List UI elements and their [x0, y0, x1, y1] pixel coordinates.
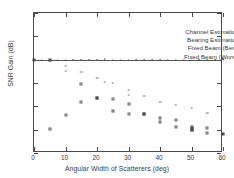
data-point: [41, 59, 43, 61]
data-point: [111, 83, 114, 84]
data-point: [96, 59, 98, 61]
data-point: [127, 103, 130, 106]
data-point: [151, 59, 153, 61]
data-point: [65, 59, 67, 61]
y-tick-mark: [217, 153, 221, 154]
data-point: [80, 71, 83, 72]
data-point: [127, 112, 130, 115]
data-point: [73, 59, 75, 61]
data-point: [136, 59, 138, 61]
data-point: [48, 128, 51, 131]
data-point: [104, 81, 107, 82]
data-point: [88, 59, 90, 61]
data-point: [57, 59, 59, 61]
data-point: [159, 117, 162, 120]
legend-item: Bearing Estimation: [167, 36, 234, 44]
data-point: [127, 95, 130, 96]
data-point: [190, 108, 193, 109]
data-point: [174, 126, 177, 129]
data-point: [222, 132, 225, 135]
data-point: [80, 83, 83, 86]
data-point: [96, 97, 99, 100]
data-point: [64, 113, 67, 116]
data-point: [96, 77, 99, 78]
chart-figure: SNR Gain (dB) Angular Width of Scatterer…: [0, 0, 234, 178]
y-tick-mark: [34, 83, 38, 84]
y-tick-mark: [34, 106, 38, 107]
x-tick-label: 60: [212, 155, 232, 162]
data-point: [143, 59, 145, 61]
data-point: [64, 66, 67, 67]
y-tick-mark: [217, 130, 221, 131]
legend-label: Channel Estimation: [185, 28, 234, 36]
plot-area: Channel EstimationBearing EstimationFixe…: [33, 12, 222, 152]
legend-label: Fixed Beam (Best): [188, 44, 234, 52]
data-point: [174, 118, 177, 121]
y-tick-mark: [34, 36, 38, 37]
legend-label: Bearing Estimation: [187, 36, 234, 44]
x-tick-label: 0: [23, 155, 43, 162]
x-tick-label: 10: [55, 155, 75, 162]
chart-legend: Channel EstimationBearing EstimationFixe…: [167, 28, 234, 61]
data-point: [128, 59, 130, 61]
data-point: [64, 71, 67, 72]
x-tick-mark: [97, 147, 98, 151]
x-tick-label: 40: [149, 155, 169, 162]
y-tick-mark: [217, 106, 221, 107]
x-tick-mark: [192, 147, 193, 151]
data-point: [206, 112, 209, 113]
data-point: [143, 95, 146, 96]
x-tick-mark: [66, 13, 67, 17]
x-tick-mark: [192, 13, 193, 17]
data-point: [190, 129, 193, 132]
x-tick-mark: [160, 147, 161, 151]
x-tick-mark: [129, 13, 130, 17]
data-point: [159, 102, 162, 103]
data-point: [33, 147, 36, 148]
data-point: [159, 121, 162, 124]
x-tick-mark: [66, 147, 67, 151]
y-tick-mark: [217, 83, 221, 84]
data-point: [174, 105, 177, 106]
data-point: [143, 112, 146, 115]
data-point: [120, 59, 122, 61]
legend-item: Fixed Beam (Best): [167, 44, 234, 52]
data-point: [112, 59, 114, 61]
x-tick-mark: [129, 147, 130, 151]
y-tick-mark: [217, 13, 221, 14]
data-point: [104, 58, 106, 60]
x-tick-label: 30: [118, 155, 138, 162]
data-point: [159, 59, 161, 61]
data-point: [80, 59, 82, 61]
x-tick-label: 20: [86, 155, 106, 162]
x-tick-mark: [97, 13, 98, 17]
data-point: [48, 59, 51, 62]
data-point: [111, 98, 114, 101]
data-point: [111, 109, 114, 112]
x-tick-label: 50: [181, 155, 201, 162]
data-point: [206, 131, 209, 134]
data-point: [33, 58, 36, 61]
data-point: [206, 126, 209, 129]
x-tick-mark: [223, 13, 224, 17]
y-tick-mark: [34, 153, 38, 154]
data-point: [127, 89, 130, 90]
y-tick-mark: [34, 130, 38, 131]
x-tick-mark: [34, 13, 35, 17]
x-tick-mark: [223, 147, 224, 151]
x-axis-label: Angular Width of Scatterers (deg): [0, 165, 234, 172]
data-point: [80, 101, 83, 104]
y-axis-label: SNR Gain (dB): [7, 12, 14, 116]
legend-item: Channel Estimation: [167, 28, 234, 36]
legend-item: Fixed Beam (Worst): [167, 53, 234, 61]
legend-label: Fixed Beam (Worst): [184, 53, 234, 61]
x-tick-mark: [160, 13, 161, 17]
